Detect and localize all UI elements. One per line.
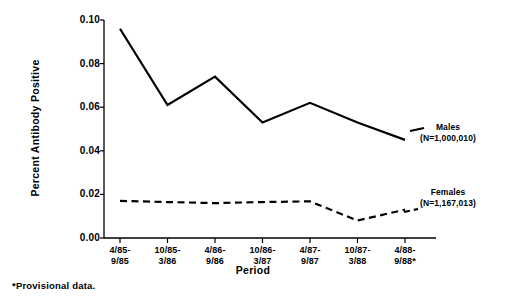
x-axis-tick-label: 4/88-9/88* [375,245,435,266]
y-axis-title-text: Percent Antibody Positive [29,59,41,196]
y-axis-tick-label: 0.02 [54,188,100,199]
y-axis-tick-label: 0.04 [54,145,100,156]
series-annotation-females-name: Females [431,187,466,197]
footnote-provisional-data: *Provisional data. [12,280,95,291]
series-line-males [120,29,405,140]
x-axis-tick-label-line: 4/88- [375,245,435,256]
y-axis-tick-label: 0.00 [54,232,100,243]
series-annotation-females: Females (N=1,167,013) [394,187,502,209]
series-line-females [120,201,405,221]
series-annotation-males-count: (N=1,000,010) [394,133,502,144]
y-axis-tick-label: 0.06 [54,101,100,112]
legend-stub-females [404,209,418,212]
y-axis-title: Percent Antibody Positive [24,28,46,228]
chart-figure: Percent Antibody Positive 0.000.020.040.… [0,0,506,298]
series-annotation-males: Males (N=1,000,010) [394,122,502,144]
x-axis-ticks [120,238,405,243]
y-axis-tick-label: 0.08 [54,58,100,69]
x-axis-title: Period [0,264,506,276]
series-annotation-males-name: Males [436,122,460,132]
y-axis-tick-label: 0.10 [54,14,100,25]
series-annotation-females-count: (N=1,167,013) [394,198,502,209]
